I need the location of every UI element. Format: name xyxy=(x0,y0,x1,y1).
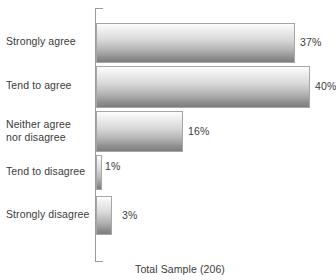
category-label-line-2: nor disagree xyxy=(6,131,66,143)
bar-container-tend-to-disagree xyxy=(96,155,102,190)
category-label-line-1: Neither agree xyxy=(6,118,71,130)
bar-row-tend-to-agree: Tend to agree 40% xyxy=(0,66,336,108)
bar-row-strongly-agree: Strongly agree 37% xyxy=(0,23,336,63)
category-label-line-1: Strongly disagree xyxy=(6,208,89,220)
bar-value-neither-agree-nor-disagree: 16% xyxy=(188,125,209,138)
chart-caption: Total Sample (206) xyxy=(0,262,336,276)
bar-value-strongly-disagree: 3% xyxy=(122,209,137,222)
bar-tend-to-disagree[interactable] xyxy=(96,155,102,190)
bar-container-strongly-agree xyxy=(96,23,295,63)
bar-value-tend-to-disagree: 1% xyxy=(105,160,120,173)
bar-tend-to-agree[interactable] xyxy=(96,66,310,108)
category-label-line-1: Tend to agree xyxy=(6,79,72,91)
bar-strongly-disagree[interactable] xyxy=(96,196,112,235)
axis-tick-top xyxy=(95,8,103,9)
bar-row-tend-to-disagree: Tend to disagree 1% xyxy=(0,155,336,190)
category-label-strongly-disagree: Strongly disagree xyxy=(6,208,92,221)
bar-neither-agree-nor-disagree[interactable] xyxy=(96,111,183,152)
category-label-tend-to-disagree: Tend to disagree xyxy=(6,165,92,178)
category-label-line-1: Strongly agree xyxy=(6,35,76,47)
bar-container-neither-agree-nor-disagree xyxy=(96,111,183,152)
bar-row-strongly-disagree: Strongly disagree 3% xyxy=(0,196,336,235)
category-label-neither-agree-nor-disagree: Neither agree nor disagree xyxy=(6,118,92,144)
horizontal-bar-chart: Strongly agree 37% Tend to agree 40% Nei… xyxy=(0,0,336,280)
bar-value-strongly-agree: 37% xyxy=(300,36,321,49)
bar-row-neither-agree-nor-disagree: Neither agree nor disagree 16% xyxy=(0,111,336,152)
bar-strongly-agree[interactable] xyxy=(96,23,295,63)
category-label-tend-to-agree: Tend to agree xyxy=(6,79,92,92)
bar-container-tend-to-agree xyxy=(96,66,310,108)
bar-value-tend-to-agree: 40% xyxy=(315,80,336,93)
bar-container-strongly-disagree xyxy=(96,196,112,235)
category-label-line-1: Tend to disagree xyxy=(6,165,85,177)
category-label-strongly-agree: Strongly agree xyxy=(6,35,92,48)
